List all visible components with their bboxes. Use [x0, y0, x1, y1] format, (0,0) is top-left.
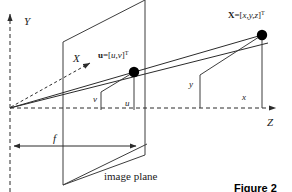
image-point-transpose: T [125, 50, 129, 56]
svg-text:X=[x,y,z]T: X=[x,y,z]T [228, 10, 265, 20]
y-axis-label: Y [24, 15, 32, 27]
world-point-dot [257, 30, 267, 40]
figure-container: Y Z X X=[x,y,z]T u=[u,v]T v u y x f imag… [0, 0, 292, 192]
image-point-components: u,v [111, 50, 122, 60]
world-point-equals: =[ [235, 10, 243, 20]
svg-text:u=[u,v]T: u=[u,v]T [98, 50, 129, 60]
x-axis-line [11, 63, 90, 107]
image-plane-polygon [63, 0, 145, 185]
world-point-transpose: T [261, 10, 265, 16]
x-axis-label: X [72, 52, 81, 64]
world-point-label: X=[x,y,z]T [228, 10, 265, 20]
image-point-label: u=[u,v]T [98, 50, 129, 60]
world-x-label: x [241, 92, 246, 102]
figure-caption: Figure 2 [234, 182, 277, 192]
image-plane-label: image plane [104, 170, 158, 182]
world-rect-polygon [200, 35, 262, 108]
world-point-components: x,y,z [242, 10, 259, 20]
projection-diagram: Y Z X X=[x,y,z]T u=[u,v]T v u y x f imag… [0, 0, 292, 192]
image-point-equals: =[ [103, 50, 111, 60]
image-u-label: u [125, 98, 130, 108]
projection-ray-lower [10, 43, 268, 108]
image-v-label: v [93, 94, 97, 104]
focal-length-label: f [53, 132, 58, 144]
image-point-dot [129, 67, 139, 77]
z-axis-label: Z [267, 116, 274, 128]
world-y-label: y [188, 79, 193, 89]
